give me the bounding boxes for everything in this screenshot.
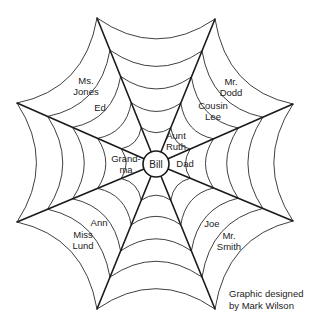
- web-thread: [121, 239, 192, 251]
- web-thread: [131, 103, 181, 112]
- label-line: Ruth: [166, 141, 186, 152]
- label-line: Dodd: [220, 87, 243, 98]
- label-grandma: Grand-ma: [111, 154, 141, 175]
- web-thread: [171, 178, 191, 200]
- label-miss-lund: MissLund: [72, 230, 93, 251]
- web-thread: [121, 128, 141, 149]
- spoke-line: [156, 164, 215, 309]
- web-thread: [73, 127, 85, 198]
- label-line: Smith: [217, 241, 241, 252]
- label-ms-jones: Ms.Jones: [73, 76, 98, 97]
- web-thread: [274, 104, 293, 221]
- label-line: Lee: [198, 111, 228, 122]
- web-thread: [141, 195, 171, 200]
- credit-line-2: by Mark Wilson: [229, 300, 303, 312]
- web-thread: [121, 179, 141, 201]
- label-line: Ed: [94, 103, 106, 114]
- label-line: Joe: [204, 219, 219, 230]
- label-dad: Dad: [176, 159, 193, 170]
- label-line: ma: [111, 164, 141, 175]
- web-thread: [110, 50, 202, 66]
- label-cousin-lee: CousinLee: [198, 101, 228, 122]
- center-name: Bill: [149, 159, 162, 170]
- label-line: Grand-: [111, 154, 141, 165]
- label-line: Mr.: [217, 231, 241, 242]
- label-mr-smith: Mr.Smith: [217, 231, 241, 252]
- label-line: Mr.: [220, 77, 243, 88]
- web-thread: [227, 128, 239, 198]
- web-thread: [48, 116, 63, 209]
- web-thread: [121, 76, 192, 89]
- label-ann: Ann: [91, 218, 108, 229]
- label-line: Miss: [72, 230, 93, 241]
- web-thread: [17, 103, 36, 222]
- web-thread: [98, 138, 106, 188]
- web-thread: [110, 261, 202, 277]
- credit-line-1: Graphic designed: [229, 288, 303, 300]
- label-line: Aunt: [166, 131, 186, 142]
- label-line: Ms.: [73, 76, 98, 87]
- spider-web-diagram: Bill: [0, 0, 312, 328]
- web-thread: [97, 18, 215, 39]
- credit-text: Graphic designed by Mark Wilson: [229, 288, 303, 312]
- web-thread: [205, 139, 213, 188]
- web-thread: [97, 289, 215, 309]
- label-line: Lund: [72, 240, 93, 251]
- label-mr-dodd: Mr.Dodd: [220, 77, 243, 98]
- web-thread: [131, 216, 181, 225]
- label-joe: Joe: [204, 219, 219, 230]
- label-line: Ann: [91, 218, 108, 229]
- label-aunt-ruth: AuntRuth: [166, 131, 186, 152]
- label-line: Dad: [176, 159, 193, 170]
- label-line: Jones: [73, 86, 98, 97]
- label-line: Cousin: [198, 101, 228, 112]
- label-ed: Ed: [94, 103, 106, 114]
- web-thread: [248, 117, 263, 208]
